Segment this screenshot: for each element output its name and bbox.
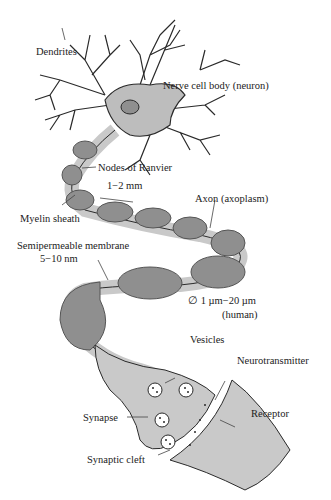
label-neurotransmitter: Neurotransmitter	[237, 355, 309, 367]
label-synaptic-cleft: Synaptic cleft	[87, 454, 145, 466]
label-cell-body: Nerve cell body (neuron)	[163, 80, 269, 92]
label-receptor: Receptor	[251, 408, 289, 420]
label-nodes-of-ranvier: Nodes of Ranvier	[98, 162, 172, 174]
label-membrane-thickness: 5−10 nm	[40, 253, 78, 265]
label-axon: Axon (axoplasm)	[195, 193, 268, 205]
label-node-spacing: 1−2 mm	[107, 180, 142, 192]
label-diameter: ∅ 1 µm−20 µm	[188, 295, 256, 307]
label-synapse: Synapse	[83, 412, 118, 424]
label-membrane: Semipermeable membrane	[17, 240, 129, 252]
label-myelin-sheath: Myelin sheath	[20, 213, 80, 225]
label-dendrites: Dendrites	[36, 46, 77, 58]
label-vesicles: Vesicles	[190, 334, 224, 346]
label-diameter-note: (human)	[222, 309, 258, 321]
